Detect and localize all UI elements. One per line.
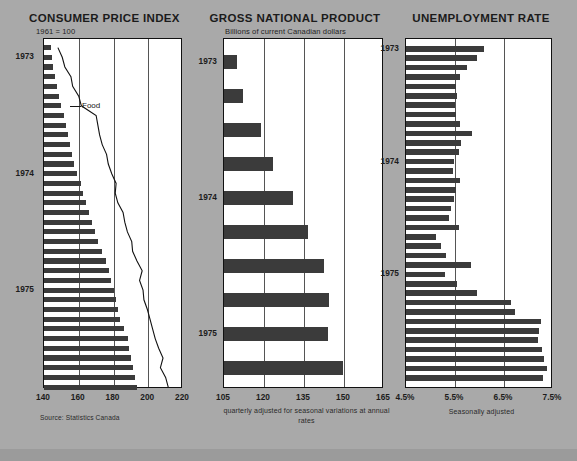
x-tick-label: 140 (36, 392, 50, 402)
bar (406, 356, 544, 362)
chart-subtitle-gnp: Billions of current Canadian dollars (225, 27, 346, 36)
year-label: 1975 (16, 284, 34, 294)
bar (406, 187, 456, 193)
food-series-label: Food (82, 101, 100, 110)
bar (224, 157, 273, 171)
x-tick-label: 6.5% (494, 392, 513, 402)
bar (224, 225, 308, 239)
food-leader-line (70, 106, 81, 107)
year-label: 1973 (365, 43, 399, 53)
bar (406, 328, 539, 334)
bar (224, 191, 293, 205)
bar (406, 55, 477, 61)
x-tick-label: 120 (256, 392, 270, 402)
x-tick-label: 180 (106, 392, 120, 402)
bar (406, 337, 538, 343)
bar (224, 361, 343, 375)
bar (406, 131, 472, 137)
bar (406, 159, 454, 165)
bar (406, 84, 456, 90)
bar (406, 253, 446, 259)
chart-subtitle-cpi: 1961 = 100 (36, 27, 75, 36)
bar (406, 112, 456, 118)
year-label: 1974 (365, 156, 399, 166)
x-tick-label: 7.5% (543, 392, 562, 402)
bar (406, 309, 515, 315)
bar (406, 366, 547, 372)
year-label: 1975 (365, 268, 399, 278)
year-label: 1975 (183, 328, 217, 338)
food-line-series (44, 39, 183, 389)
bar-group-unemployment (406, 39, 551, 387)
plot-area-unemployment (405, 38, 552, 388)
bar (224, 55, 237, 69)
bar (406, 178, 460, 184)
bar (406, 234, 436, 240)
bar (406, 149, 459, 155)
bar (406, 319, 541, 325)
bar (406, 225, 459, 231)
chart-panel-consumer-price-index: CONSUMER PRICE INDEX 1961 = 100 Food 197… (0, 0, 205, 461)
year-label: 1974 (16, 168, 34, 178)
plot-area-cpi (43, 38, 182, 388)
x-tick-label: 5.5% (445, 392, 464, 402)
bar (224, 259, 324, 273)
bar (406, 46, 484, 52)
bar (406, 375, 543, 381)
line-series-food (58, 48, 168, 388)
chart-title-unemployment: UNEMPLOYMENT RATE (385, 12, 577, 24)
bar (224, 327, 328, 341)
x-axis-labels-cpi: 140160180200220 (43, 392, 182, 406)
bar (406, 65, 467, 71)
chart-panel-gross-national-product: GROSS NATIONAL PRODUCT Billions of curre… (205, 0, 385, 461)
chart-title-cpi: CONSUMER PRICE INDEX (2, 12, 207, 24)
bar (406, 74, 460, 80)
x-tick-label: 135 (296, 392, 310, 402)
bar (406, 93, 457, 99)
plot-area-gnp (223, 38, 383, 388)
bar (406, 121, 460, 127)
x-tick-label: 105 (216, 392, 230, 402)
source-note: Source: Statistics Canada (40, 414, 120, 421)
x-tick-label: 160 (71, 392, 85, 402)
bar (224, 89, 243, 103)
bar (406, 196, 454, 202)
bar (406, 243, 441, 249)
bar (406, 168, 453, 174)
x-tick-label: 220 (175, 392, 189, 402)
footnote-unemployment: Seasonally adjusted (399, 408, 564, 415)
x-axis-labels-unemployment: 4.5%5.5%6.5%7.5% (405, 392, 552, 406)
bar (406, 262, 471, 268)
footnote-gnp: quarterly adjusted for seasonal variatio… (219, 406, 394, 426)
x-tick-label: 150 (336, 392, 350, 402)
bar (224, 293, 329, 307)
bar (406, 102, 455, 108)
bar (406, 206, 451, 212)
bar (406, 347, 542, 353)
bar (224, 123, 261, 137)
chart-sheet: CONSUMER PRICE INDEX 1961 = 100 Food 197… (0, 0, 577, 449)
bar (406, 281, 457, 287)
x-tick-label: 4.5% (396, 392, 415, 402)
year-label: 1973 (16, 51, 34, 61)
chart-panel-unemployment-rate: UNEMPLOYMENT RATE 197319741975 4.5%5.5%6… (385, 0, 577, 461)
chart-title-gnp: GROSS NATIONAL PRODUCT (205, 12, 385, 24)
year-label: 1974 (183, 192, 217, 202)
x-axis-labels-gnp: 105120135150165 (223, 392, 383, 406)
page-bottom-band (0, 449, 577, 461)
bar (406, 300, 511, 306)
bar (406, 215, 449, 221)
bar-group-gnp (224, 39, 382, 387)
year-label: 1973 (183, 56, 217, 66)
x-tick-label: 200 (140, 392, 154, 402)
bar (406, 290, 477, 296)
bar (406, 140, 461, 146)
bar (406, 272, 445, 278)
